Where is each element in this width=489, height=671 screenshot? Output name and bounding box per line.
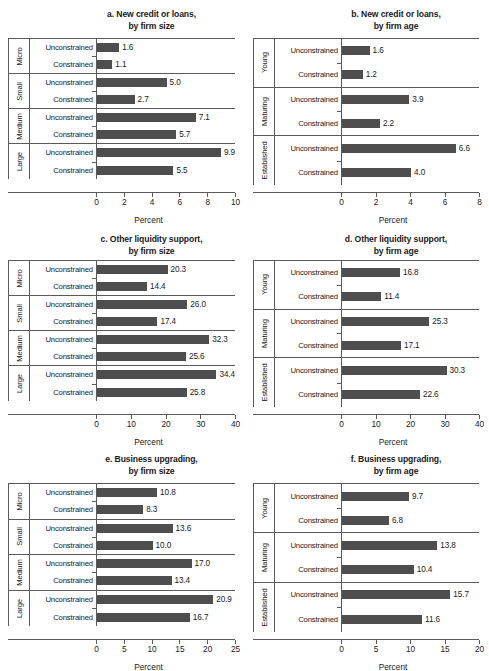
bar-row: Unconstrained30.3: [275, 358, 479, 382]
panel-title-d: d. Other liquidity support,by firm age: [245, 234, 485, 257]
bar-row: Constrained2.7: [30, 91, 235, 108]
bar-row: Constrained13.4: [30, 572, 235, 589]
bar-value-label: 13.4: [175, 576, 191, 585]
category-label-constrained: Constrained: [275, 508, 341, 532]
bar-track: 17.0: [97, 555, 235, 572]
bar-group: MediumUnconstrained32.3Constrained25.6: [8, 331, 235, 366]
group-rows: YoungUnconstrained9.7Constrained6.8Matur…: [253, 483, 479, 631]
bar-group: YoungUnconstrained16.8Constrained11.4: [253, 261, 479, 310]
x-tick-label: 0: [94, 644, 99, 654]
bar: [342, 144, 456, 153]
group-label-text: Large: [15, 374, 24, 393]
x-tick-label: 2: [122, 197, 127, 207]
bar-value-label: 5.7: [179, 130, 190, 139]
bar-track: 10.8: [97, 484, 235, 501]
group-bars: Unconstrained13.6Constrained10.0: [30, 520, 235, 555]
x-axis-ticks: 010203040: [8, 415, 235, 433]
bar-track: 9.7: [342, 484, 479, 508]
category-label-unconstrained: Unconstrained: [30, 144, 96, 162]
bar-track: 7.1: [97, 109, 235, 126]
x-tick-label: 0: [94, 419, 99, 429]
bar-row: Unconstrained15.7: [275, 583, 479, 608]
bar-row: Constrained1.2: [275, 63, 479, 87]
group-label-small: Small: [8, 74, 30, 108]
x-tick-label: 15: [175, 644, 184, 654]
bar-value-label: 13.8: [440, 541, 456, 550]
bar-value-label: 26.0: [190, 300, 206, 309]
bar-value-label: 32.3: [212, 335, 228, 344]
category-label-constrained: Constrained: [30, 608, 96, 626]
category-label-unconstrained: Unconstrained: [30, 261, 96, 278]
bar-track: 16.7: [97, 608, 235, 626]
bar-track: 15.7: [342, 583, 479, 608]
x-tick-label: 10: [406, 644, 415, 654]
bar: [97, 148, 221, 157]
bar-track: 22.6: [342, 383, 479, 407]
x-axis-ticks: 0246810: [8, 193, 235, 211]
x-tick-label: 0: [339, 419, 344, 429]
x-tick-label: 4: [150, 197, 155, 207]
category-label-unconstrained: Unconstrained: [275, 358, 341, 382]
bar: [97, 370, 216, 379]
x-tick-label: 0: [339, 197, 344, 207]
bar-value-label: 25.6: [189, 352, 205, 361]
bar-value-label: 10.4: [417, 565, 433, 574]
group-label-established: Established: [253, 136, 275, 185]
category-label-unconstrained: Unconstrained: [30, 591, 96, 609]
bar: [97, 282, 147, 291]
category-label-unconstrained: Unconstrained: [30, 331, 96, 348]
bar-group: SmallUnconstrained26.0Constrained17.4: [8, 296, 235, 331]
category-label-constrained: Constrained: [275, 63, 341, 87]
bar-group: YoungUnconstrained1.6Constrained1.2: [253, 39, 479, 88]
bar-row: Constrained2.2: [275, 111, 479, 135]
bar-row: Unconstrained25.3: [275, 310, 479, 334]
x-tick-label: 30: [440, 419, 449, 429]
bar-value-label: 6.6: [459, 144, 470, 153]
bar-row: Constrained6.8: [275, 508, 479, 532]
panel-title-c: c. Other liquidity support,by firm size: [0, 234, 241, 257]
bar: [342, 317, 429, 326]
bar-value-label: 11.4: [384, 292, 399, 301]
category-label-unconstrained: Unconstrained: [30, 555, 96, 572]
group-bars: Unconstrained5.0Constrained2.7: [30, 74, 235, 108]
bar: [97, 388, 187, 397]
bar: [97, 488, 157, 497]
x-tick-label: 10: [371, 419, 380, 429]
bar: [97, 524, 173, 533]
group-bars: Unconstrained30.3Constrained22.6: [275, 358, 479, 407]
group-label-text: Maturing: [260, 543, 269, 572]
plot-area-b: YoungUnconstrained1.6Constrained1.2Matur…: [253, 38, 479, 184]
bar-track: 6.8: [342, 508, 479, 532]
group-label-large: Large: [8, 591, 30, 627]
bar-row: Unconstrained9.9: [30, 144, 235, 162]
bar-value-label: 25.3: [432, 317, 448, 326]
group-bars: Unconstrained32.3Constrained25.6: [30, 331, 235, 365]
group-label-text: Young: [260, 52, 269, 73]
group-bars: Unconstrained34.4Constrained25.8: [30, 366, 235, 401]
bar: [97, 559, 192, 568]
bar-value-label: 8.3: [146, 505, 157, 514]
x-tick-label: 20: [203, 644, 212, 654]
bar: [342, 366, 447, 375]
bar-value-label: 15.7: [453, 590, 469, 599]
group-label-large: Large: [8, 366, 30, 401]
category-label-unconstrained: Unconstrained: [30, 74, 96, 91]
bar: [97, 613, 190, 622]
bar-value-label: 20.3: [171, 265, 187, 274]
group-bars: Unconstrained16.8Constrained11.4: [275, 261, 479, 309]
bar-row: Unconstrained34.4: [30, 366, 235, 384]
bar-track: 13.4: [97, 572, 235, 589]
bar-value-label: 10.0: [156, 541, 172, 550]
bar-track: 10.0: [97, 537, 235, 554]
bar-value-label: 2.7: [138, 95, 149, 104]
bar: [97, 335, 209, 344]
group-label-text: Small: [15, 82, 24, 101]
bar-row: Constrained25.6: [30, 348, 235, 365]
x-tick-label: 5: [122, 644, 127, 654]
bar-value-label: 1.1: [115, 60, 126, 69]
x-tick-label: 8: [205, 197, 210, 207]
chart-panel-c: c. Other liquidity support,by firm sizeM…: [0, 225, 245, 445]
bar-track: 20.3: [97, 261, 235, 278]
bar-value-label: 11.6: [425, 615, 440, 624]
category-label-constrained: Constrained: [30, 384, 96, 402]
